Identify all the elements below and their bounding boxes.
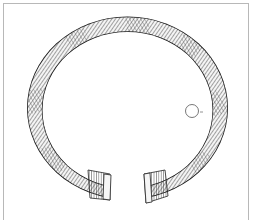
twisted-hoop [25,15,230,200]
bracelet-drawing [0,0,253,220]
right-terminal [144,170,168,203]
left-terminal [88,170,111,200]
